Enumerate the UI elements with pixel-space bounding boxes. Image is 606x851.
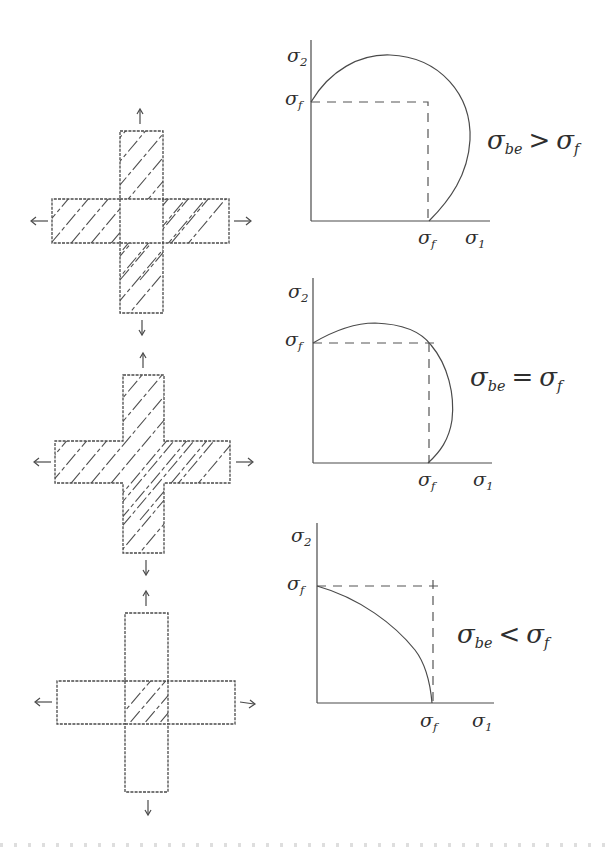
arrow-up-icon — [140, 353, 146, 368]
arrow-right-icon — [240, 700, 255, 708]
plot-3-envelope — [317, 586, 432, 703]
plot-3-condition: σbe<σf — [457, 621, 549, 650]
arrow-down-icon — [143, 560, 149, 575]
specimen-1-cross — [0, 90, 300, 360]
plot-2-envelope — [313, 323, 453, 463]
arrow-up-icon — [143, 591, 149, 606]
specimen-3-cross — [35, 591, 255, 815]
plot-3-x-tick-label: σf — [420, 711, 437, 734]
plot-2-x-tick-label: σf — [418, 470, 435, 493]
plot-3-sf-box — [317, 580, 443, 703]
plot-2-y-axis-label: σ2 — [288, 282, 308, 305]
plot-1-sf-box — [311, 102, 428, 221]
arrow-up-icon — [137, 109, 143, 124]
plot-2-x-axis-label: σ1 — [473, 470, 493, 493]
arrow-down-icon — [145, 800, 151, 815]
plot-3 — [317, 523, 494, 703]
plot-1 — [311, 40, 490, 221]
specimen-2-cross — [0, 330, 300, 600]
plot-1-x-axis-label: σ1 — [465, 228, 485, 251]
plot-3-x-axis-label: σ1 — [472, 711, 492, 734]
plot-1-y-axis-label: σ2 — [287, 46, 307, 69]
arrow-left-icon — [34, 458, 51, 466]
arrow-down-icon — [139, 320, 145, 335]
arrow-left-icon — [31, 217, 48, 225]
plot-1-y-tick-label: σf — [285, 89, 302, 112]
plot-3-y-axis-label: σ2 — [291, 526, 311, 549]
plot-1-condition: σbe>σf — [487, 127, 579, 156]
plot-2-condition: σbe=σf — [470, 364, 562, 393]
plot-1-envelope — [311, 55, 470, 221]
plot-2-sf-box — [313, 343, 440, 463]
plot-3-y-tick-label: σf — [287, 574, 304, 597]
arrow-right-icon — [236, 458, 253, 466]
plot-2 — [313, 278, 492, 463]
arrow-left-icon — [35, 698, 52, 706]
specimen-2-hatching — [0, 330, 300, 600]
cut-off-caption-line — [0, 843, 606, 847]
plot-2-y-tick-label: σf — [285, 330, 302, 353]
plot-1-x-tick-label: σf — [418, 228, 435, 251]
arrow-right-icon — [234, 217, 251, 225]
